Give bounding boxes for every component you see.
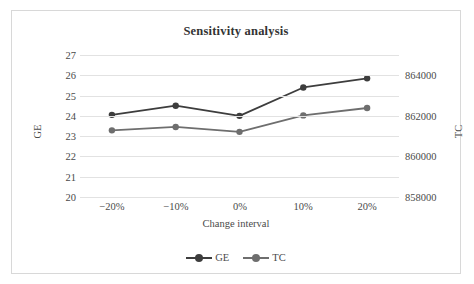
- y-axis-right-title: TC: [453, 125, 464, 138]
- gridline: [80, 75, 399, 76]
- chart-frame: Sensitivity analysis 27 26 25 24 23 22 2…: [11, 10, 461, 274]
- data-point[interactable]: [109, 112, 115, 118]
- x-axis-tick: 0%: [210, 201, 270, 212]
- y-axis-left-tick: 25: [40, 90, 76, 101]
- y-axis-right-tick: 864000: [405, 70, 469, 81]
- gridline: [80, 116, 399, 117]
- y-axis-right-tick: 862000: [405, 110, 469, 121]
- series-line-ge: [112, 78, 367, 116]
- gridline: [80, 197, 399, 198]
- gridline: [80, 55, 399, 56]
- y-axis-left-tick: 24: [40, 110, 76, 121]
- series-canvas: [80, 55, 399, 197]
- y-axis-left-tick: 21: [40, 171, 76, 182]
- legend-marker-ge: [186, 253, 212, 263]
- x-axis-tick: −20%: [82, 201, 142, 212]
- gridline: [80, 136, 399, 137]
- gridline: [80, 177, 399, 178]
- x-axis-title: Change interval: [12, 218, 460, 229]
- series-line-tc: [112, 108, 367, 132]
- legend-item-tc[interactable]: TC: [243, 252, 285, 263]
- x-axis-tick: 10%: [273, 201, 333, 212]
- data-point[interactable]: [109, 127, 115, 133]
- data-point[interactable]: [364, 105, 370, 111]
- gridline: [80, 96, 399, 97]
- data-point[interactable]: [173, 124, 179, 130]
- data-point[interactable]: [173, 103, 179, 109]
- x-axis-tick: 20%: [337, 201, 397, 212]
- y-axis-left-tick: 22: [40, 151, 76, 162]
- gridline: [80, 156, 399, 157]
- chart-title: Sensitivity analysis: [12, 24, 460, 39]
- data-point[interactable]: [236, 129, 242, 135]
- y-axis-left-tick: 23: [40, 131, 76, 142]
- y-axis-left-title: GE: [32, 125, 43, 139]
- y-axis-left-tick: 27: [40, 50, 76, 61]
- legend-label-ge: GE: [215, 252, 229, 263]
- y-axis-right-tick: 860000: [405, 151, 469, 162]
- plot-area: [80, 55, 399, 197]
- y-axis-left-tick: 20: [40, 192, 76, 203]
- x-axis-tick: −10%: [146, 201, 206, 212]
- y-axis-right-tick: 858000: [405, 192, 469, 203]
- y-axis-left-tick: 26: [40, 70, 76, 81]
- legend-label-tc: TC: [272, 252, 285, 263]
- legend-marker-tc: [243, 253, 269, 263]
- legend-item-ge[interactable]: GE: [186, 252, 229, 263]
- data-point[interactable]: [300, 84, 306, 90]
- chart-legend: GE TC: [12, 252, 460, 263]
